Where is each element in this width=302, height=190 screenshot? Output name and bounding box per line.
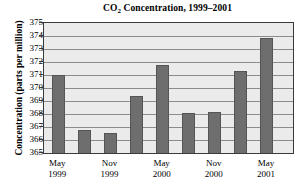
x-label-year: 2000 (137, 169, 187, 180)
x-label-year: 1999 (32, 169, 82, 180)
gridline (44, 49, 293, 50)
chart-title-rest: Concentration, 1999–2001 (121, 3, 232, 13)
bar-2 (78, 130, 91, 153)
bar-3 (104, 133, 117, 153)
gridline (44, 36, 293, 37)
x-label-year: 2000 (189, 169, 239, 180)
chart-figure: CO2 Concentration, 1999–2001 Concentrati… (0, 0, 302, 190)
bar-1 (52, 75, 65, 153)
x-label-month: May (32, 158, 82, 169)
bar-5 (156, 65, 169, 153)
bar-6 (182, 113, 195, 153)
bar-4 (130, 96, 143, 153)
chart-title-subscript: 2 (117, 7, 121, 15)
x-axis-label-5: May2001 (241, 158, 291, 180)
x-axis-labels: May1999Nov1999May2000Nov2000May2001 (43, 156, 292, 186)
chart-title-main: CO (103, 3, 117, 13)
bar-9 (260, 38, 273, 153)
y-axis-ticks: 375374373372371370369368367366365 (11, 22, 43, 152)
x-label-month: May (137, 158, 187, 169)
x-label-month: May (241, 158, 291, 169)
x-label-month: Nov (84, 158, 134, 169)
x-axis-label-2: Nov1999 (84, 158, 134, 180)
chart-title: CO2 Concentration, 1999–2001 (43, 3, 292, 13)
gridline (44, 62, 293, 63)
bar-7 (208, 112, 221, 153)
bar-8 (234, 71, 247, 153)
x-axis-label-1: May1999 (32, 158, 82, 180)
plot-area (43, 22, 294, 154)
x-label-year: 2001 (241, 169, 291, 180)
x-label-month: Nov (189, 158, 239, 169)
x-axis-label-3: May2000 (137, 158, 187, 180)
x-label-year: 1999 (84, 169, 134, 180)
x-axis-label-4: Nov2000 (189, 158, 239, 180)
